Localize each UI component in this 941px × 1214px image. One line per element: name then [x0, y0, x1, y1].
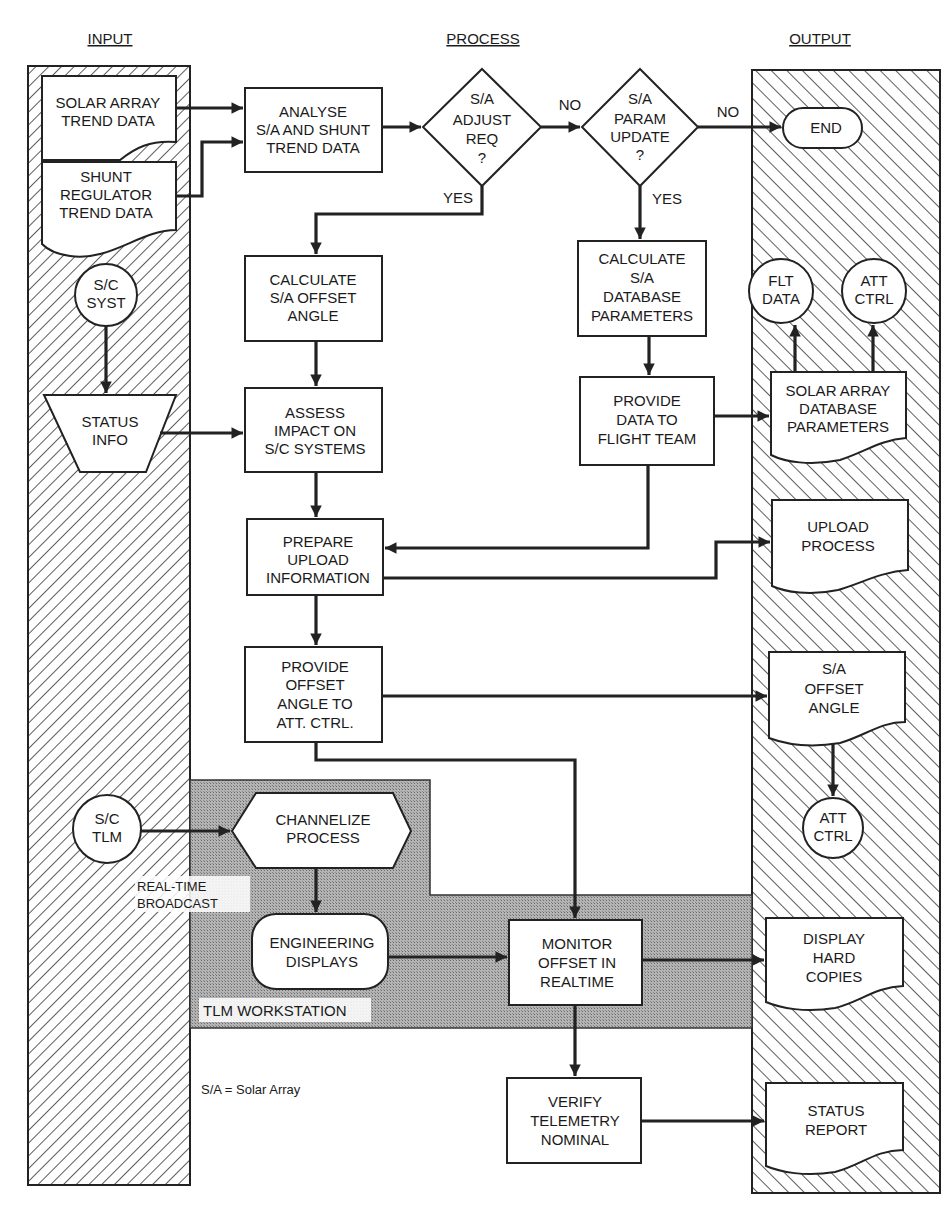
analyse-trend-data[interactable]: ANALYSE S/A AND SHUNT TREND DATA — [245, 88, 382, 172]
svg-text:STATUS: STATUS — [808, 1102, 865, 1119]
svg-text:OFFSET: OFFSET — [804, 680, 863, 697]
provide-offset-angle[interactable]: PROVIDE OFFSET ANGLE TO ATT. CTRL. — [245, 647, 382, 742]
svg-text:INFORMATION: INFORMATION — [266, 569, 370, 586]
edge-label-no-param: NO — [717, 103, 740, 120]
edge-label-yes-adjust: YES — [443, 189, 473, 206]
svg-text:S/A: S/A — [822, 660, 846, 677]
svg-text:?: ? — [478, 149, 486, 166]
svg-text:IMPACT ON: IMPACT ON — [274, 422, 356, 439]
svg-text:PREPARE: PREPARE — [283, 533, 354, 550]
end-terminator[interactable]: END — [783, 108, 862, 148]
svg-text:REPORT: REPORT — [805, 1121, 867, 1138]
svg-text:ADJUST: ADJUST — [453, 111, 511, 128]
realtime-broadcast-label: REAL-TIME — [137, 879, 207, 894]
svg-text:TREND DATA: TREND DATA — [266, 139, 360, 156]
svg-text:BROADCAST: BROADCAST — [137, 896, 218, 911]
svg-text:REALTIME: REALTIME — [540, 973, 614, 990]
svg-text:UPLOAD: UPLOAD — [807, 518, 869, 535]
svg-text:COPIES: COPIES — [806, 968, 863, 985]
svg-text:FLIGHT TEAM: FLIGHT TEAM — [598, 430, 697, 447]
assess-impact-sc-systems[interactable]: ASSESS IMPACT ON S/C SYSTEMS — [245, 388, 382, 472]
prepare-upload-information[interactable]: PREPARE UPLOAD INFORMATION — [247, 519, 383, 595]
svg-text:DATABASE: DATABASE — [799, 400, 877, 417]
sc-tlm-node[interactable]: S/C TLM — [73, 795, 141, 863]
svg-text:TREND DATA: TREND DATA — [59, 204, 153, 221]
calculate-sa-offset-angle[interactable]: CALCULATE S/A OFFSET ANGLE — [245, 256, 382, 341]
flt-data-node[interactable]: FLT DATA — [749, 259, 813, 323]
svg-text:S/A: S/A — [628, 90, 652, 107]
svg-text:REGULATOR: REGULATOR — [60, 186, 152, 203]
svg-text:ANGLE TO: ANGLE TO — [277, 695, 352, 712]
header-process: PROCESS — [446, 30, 519, 47]
svg-text:SYST: SYST — [86, 294, 125, 311]
svg-text:DATA: DATA — [762, 290, 800, 307]
svg-text:OFFSET: OFFSET — [285, 676, 344, 693]
provide-data-flight-team[interactable]: PROVIDE DATA TO FLIGHT TEAM — [580, 377, 714, 465]
svg-text:CHANNELIZE: CHANNELIZE — [275, 811, 370, 828]
engineering-displays[interactable]: ENGINEERING DISPLAYS — [252, 914, 388, 989]
svg-text:TLM: TLM — [92, 828, 122, 845]
svg-text:S/A: S/A — [630, 269, 654, 286]
svg-text:MONITOR: MONITOR — [542, 935, 613, 952]
svg-text:STATUS: STATUS — [82, 413, 139, 430]
svg-text:UPDATE: UPDATE — [610, 128, 670, 145]
header-output: OUTPUT — [789, 30, 851, 47]
svg-text:DISPLAYS: DISPLAYS — [286, 953, 358, 970]
channelize-process[interactable]: CHANNELIZE PROCESS — [232, 793, 411, 868]
svg-text:ASSESS: ASSESS — [285, 404, 345, 421]
svg-text:PROVIDE: PROVIDE — [613, 392, 681, 409]
flowchart: INPUT PROCESS OUTPUT TLM WORKSTATION SOL… — [0, 0, 941, 1214]
edge-label-no-adjust: NO — [559, 96, 582, 113]
edge-label-yes-param: YES — [652, 190, 682, 207]
svg-text:CTRL: CTRL — [813, 827, 852, 844]
svg-text:PROCESS: PROCESS — [286, 829, 359, 846]
svg-text:VERIFY: VERIFY — [548, 1093, 602, 1110]
svg-text:ANGLE: ANGLE — [809, 699, 860, 716]
svg-text:S/C: S/C — [93, 276, 118, 293]
svg-text:CALCULATE: CALCULATE — [269, 271, 356, 288]
svg-text:HARD: HARD — [813, 949, 856, 966]
svg-text:S/A: S/A — [470, 90, 494, 107]
verify-telemetry-nominal[interactable]: VERIFY TELEMETRY NOMINAL — [507, 1078, 641, 1163]
svg-text:ANALYSE: ANALYSE — [279, 103, 347, 120]
svg-text:PROCESS: PROCESS — [801, 537, 874, 554]
svg-text:DISPLAY: DISPLAY — [803, 930, 865, 947]
svg-text:END: END — [810, 119, 842, 136]
svg-text:S/A AND SHUNT: S/A AND SHUNT — [256, 121, 370, 138]
svg-text:CTRL: CTRL — [854, 290, 893, 307]
svg-text:ENGINEERING: ENGINEERING — [269, 934, 374, 951]
att-ctrl-bottom-node[interactable]: ATT CTRL — [803, 798, 863, 858]
calculate-database-parameters[interactable]: CALCULATE S/A DATABASE PARAMETERS — [578, 241, 706, 336]
sc-syst-node[interactable]: S/C SYST — [75, 264, 137, 326]
svg-text:OFFSET IN: OFFSET IN — [538, 954, 616, 971]
svg-text:NOMINAL: NOMINAL — [541, 1131, 609, 1148]
svg-text:S/A OFFSET: S/A OFFSET — [270, 289, 357, 306]
svg-text:PARAMETERS: PARAMETERS — [591, 307, 693, 324]
svg-text:PARAMETERS: PARAMETERS — [787, 418, 889, 435]
header-input: INPUT — [88, 30, 133, 47]
svg-text:ATT. CTRL.: ATT. CTRL. — [276, 714, 353, 731]
att-ctrl-top-node[interactable]: ATT CTRL — [842, 259, 906, 323]
svg-text:INFO: INFO — [92, 431, 128, 448]
svg-text:ATT: ATT — [819, 809, 846, 826]
svg-text:S/C SYSTEMS: S/C SYSTEMS — [265, 440, 366, 457]
tlm-workstation-label: TLM WORKSTATION — [203, 1002, 347, 1019]
svg-text:SOLAR ARRAY: SOLAR ARRAY — [786, 382, 891, 399]
svg-text:DATA TO: DATA TO — [616, 411, 677, 428]
svg-text:?: ? — [636, 146, 644, 163]
monitor-offset-realtime[interactable]: MONITOR OFFSET IN REALTIME — [509, 920, 642, 1005]
svg-text:ATT: ATT — [860, 272, 887, 289]
svg-text:ANGLE: ANGLE — [288, 307, 339, 324]
svg-text:TELEMETRY: TELEMETRY — [530, 1112, 620, 1129]
decision-sa-param-update[interactable]: S/A PARAM UPDATE ? — [582, 69, 698, 186]
svg-text:UPLOAD: UPLOAD — [287, 551, 349, 568]
svg-text:FLT: FLT — [768, 272, 794, 289]
svg-text:DATABASE: DATABASE — [603, 288, 681, 305]
svg-text:PROVIDE: PROVIDE — [281, 658, 349, 675]
output-column — [752, 70, 940, 1193]
svg-text:SHUNT: SHUNT — [80, 168, 132, 185]
decision-sa-adjust-req[interactable]: S/A ADJUST REQ ? — [423, 69, 541, 186]
svg-text:TREND DATA: TREND DATA — [61, 112, 155, 129]
svg-text:CALCULATE: CALCULATE — [598, 250, 685, 267]
legend-abbreviation: S/A = Solar Array — [201, 1082, 301, 1097]
